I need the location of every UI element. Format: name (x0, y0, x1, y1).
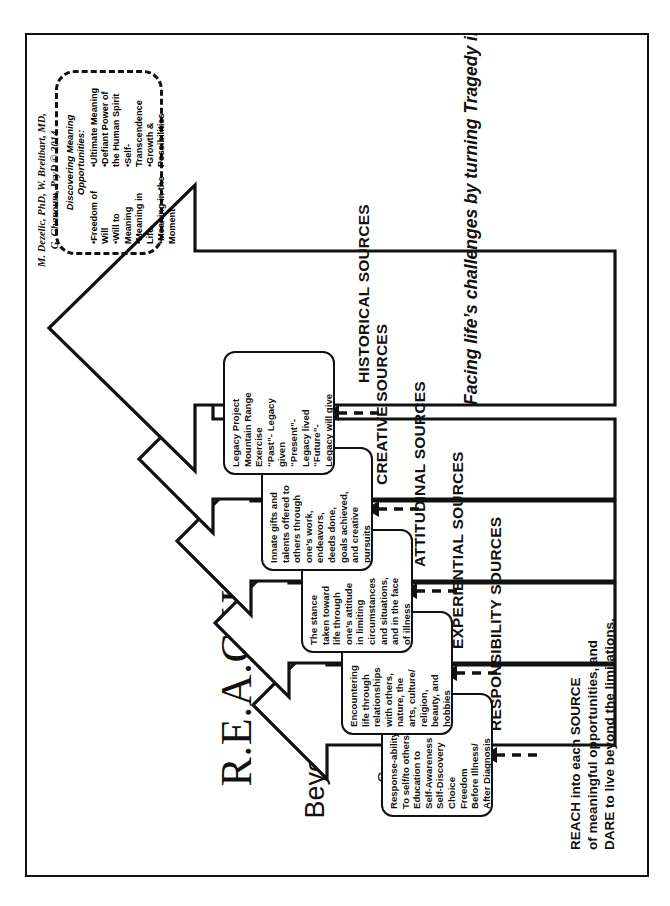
callout-column-1: •Freedom of Will •Will to Meaning •Meani… (89, 175, 179, 244)
slide-content: M. Dezelic, PhD, W. Breitbart, MD, G. Gh… (27, 35, 647, 875)
callout-column-2: •Ultimate Meaning •Defiant Power of the … (89, 81, 179, 167)
detail-box-historical: Legacy Project Mountain Range Exercise “… (223, 351, 335, 475)
discovering-meaning-callout: Discovering Meaning Opportunities: •Free… (55, 70, 163, 255)
tagline-text: Facing life’s challenges by turning Trag… (459, 75, 483, 405)
slide-frame: M. Dezelic, PhD, W. Breitbart, MD, G. Gh… (25, 33, 649, 877)
callout-heading: Discovering Meaning Opportunities: (64, 81, 86, 244)
page-canvas: M. Dezelic, PhD, W. Breitbart, MD, G. Gh… (0, 0, 670, 906)
footer-note-text: REACH into each SOURCE of meaningful opp… (567, 490, 618, 850)
